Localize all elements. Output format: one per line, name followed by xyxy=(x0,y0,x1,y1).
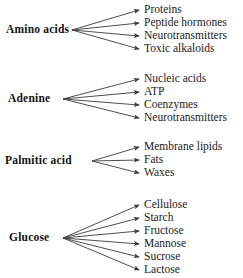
arrow-amino-acids-to-proteins xyxy=(72,10,139,30)
product-label-neurotransmitters: Neurotransmitters xyxy=(144,30,227,42)
arrow-palmitic-acid-to-fats xyxy=(92,160,139,161)
arrow-palmitic-acid-to-waxes xyxy=(92,161,139,173)
product-label-lactose: Lactose xyxy=(144,264,180,276)
arrow-glucose-to-fructose xyxy=(63,231,139,238)
arrow-amino-acids-to-neurotransmitters xyxy=(72,30,139,36)
arrow-glucose-to-sucrose xyxy=(63,238,139,257)
product-label-neurotransmitters: Neurotransmitters xyxy=(144,112,227,124)
source-label-amino-acids: Amino acids xyxy=(6,24,69,36)
source-label-adenine: Adenine xyxy=(8,93,50,105)
arrow-glucose-to-lactose xyxy=(63,238,139,270)
arrow-glucose-to-starch xyxy=(63,218,139,238)
product-label-toxic-alkaloids: Toxic alkaloids xyxy=(144,43,214,55)
product-label-starch: Starch xyxy=(144,212,173,224)
product-label-coenzymes: Coenzymes xyxy=(144,99,198,111)
arrow-amino-acids-to-peptide-hormones xyxy=(72,23,139,30)
product-label-mannose: Mannose xyxy=(144,238,186,250)
arrow-adenine-to-neurotransmitters xyxy=(63,99,139,118)
product-label-fructose: Fructose xyxy=(144,225,184,237)
arrow-lines xyxy=(63,10,139,270)
arrow-glucose-to-cellulose xyxy=(63,205,139,238)
arrow-amino-acids-to-toxic-alkaloids xyxy=(72,30,139,49)
product-label-cellulose: Cellulose xyxy=(144,199,187,211)
product-label-peptide-hormones: Peptide hormones xyxy=(144,17,227,29)
arrow-adenine-to-coenzymes xyxy=(63,99,139,105)
arrow-adenine-to-nucleic-acids xyxy=(63,79,139,99)
arrow-palmitic-acid-to-membrane-lipids xyxy=(92,147,139,161)
precursor-product-diagram: Amino acidsProteinsPeptide hormonesNeuro… xyxy=(0,0,243,278)
product-label-sucrose: Sucrose xyxy=(144,251,180,263)
product-label-atp: ATP xyxy=(144,86,164,98)
product-label-nucleic-acids: Nucleic acids xyxy=(144,73,206,85)
source-label-palmitic-acid: Palmitic acid xyxy=(5,155,72,167)
product-label-proteins: Proteins xyxy=(144,4,182,16)
source-label-glucose: Glucose xyxy=(9,232,49,244)
product-label-fats: Fats xyxy=(144,154,163,166)
arrow-glucose-to-mannose xyxy=(63,238,139,244)
product-label-membrane-lipids: Membrane lipids xyxy=(144,141,222,153)
arrow-adenine-to-atp xyxy=(63,92,139,99)
product-label-waxes: Waxes xyxy=(144,167,174,179)
